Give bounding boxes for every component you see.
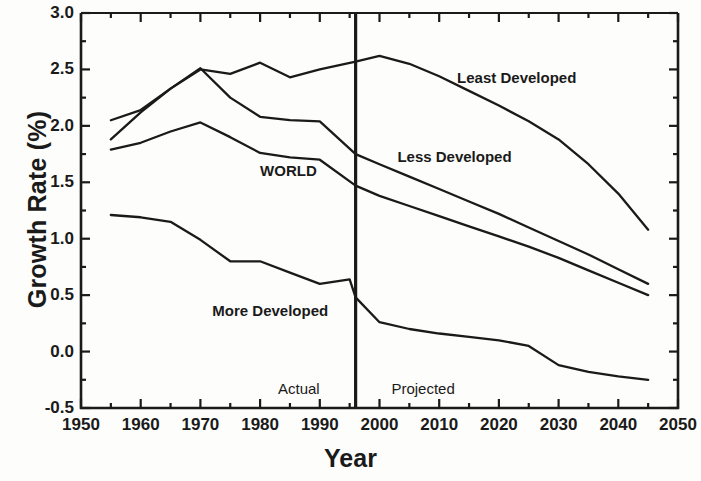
- series-label-least-developed: Least Developed: [457, 69, 576, 86]
- y-tick-label-2-0: 2.0: [12, 116, 74, 136]
- y-tick-label-1-0: 1.0: [12, 229, 74, 249]
- series-line-more-developed: [111, 215, 648, 380]
- x-tick-label-2010: 2010: [407, 415, 471, 435]
- y-tick-label-0-0: 0.0: [12, 342, 74, 362]
- series-label-more-developed: More Developed: [212, 302, 328, 319]
- growth-rate-chart: Growth Rate (%) Year 1950196019701980199…: [0, 0, 701, 481]
- x-tick-label-1980: 1980: [228, 415, 292, 435]
- x-tick-label-1960: 1960: [109, 415, 173, 435]
- annotation-actual: Actual: [278, 380, 320, 397]
- series-label-world: WORLD: [260, 162, 317, 179]
- series-line-world: [111, 122, 648, 295]
- annotation-projected: Projected: [391, 380, 454, 397]
- series-line-less-developed: [111, 68, 648, 284]
- y-tick-label--0-5: -0.5: [12, 398, 74, 418]
- x-tick-label-2020: 2020: [467, 415, 531, 435]
- x-tick-label-2030: 2030: [527, 415, 591, 435]
- x-tick-label-1970: 1970: [168, 415, 232, 435]
- y-tick-label-0-5: 0.5: [12, 285, 74, 305]
- y-tick-label-1-5: 1.5: [12, 172, 74, 192]
- plot-frame: [81, 13, 678, 408]
- y-tick-label-3-0: 3.0: [12, 3, 74, 23]
- x-axis-title: Year: [0, 444, 701, 473]
- x-tick-label-2000: 2000: [348, 415, 412, 435]
- x-tick-label-2050: 2050: [646, 415, 701, 435]
- x-tick-label-2040: 2040: [586, 415, 650, 435]
- series-label-less-developed: Less Developed: [397, 148, 511, 165]
- y-tick-label-2-5: 2.5: [12, 59, 74, 79]
- x-tick-label-1990: 1990: [288, 415, 352, 435]
- x-tick-label-1950: 1950: [49, 415, 113, 435]
- chart-canvas: [0, 0, 701, 481]
